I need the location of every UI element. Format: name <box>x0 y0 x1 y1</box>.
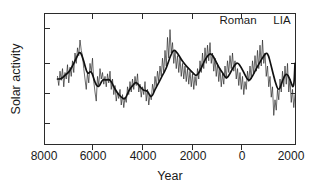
x-tick-label-0: 0 <box>239 149 246 163</box>
chart-figure: 8000 6000 4000 2000 0 2000 Year Solar ac… <box>0 0 313 191</box>
x-tick-label-4000: 4000 <box>130 149 157 163</box>
x-axis-title: Year <box>157 169 182 183</box>
annotation-lia: LIA <box>273 14 291 26</box>
solar-activity-chart: 8000 6000 4000 2000 0 2000 Year Solar ac… <box>0 0 313 191</box>
y-axis-title: Solar activity <box>9 43 23 115</box>
x-tick-label-2000bc: 2000 <box>180 149 207 163</box>
x-tick-label-8000: 8000 <box>31 149 58 163</box>
data-series-group <box>58 30 296 116</box>
y-axis-ticks <box>45 29 50 124</box>
x-tick-label-6000: 6000 <box>80 149 107 163</box>
x-axis-ticks <box>93 14 242 150</box>
annotation-roman: Roman <box>219 14 256 26</box>
series-raw-line <box>58 30 296 116</box>
x-tick-label-2000ad: 2000 <box>278 149 305 163</box>
